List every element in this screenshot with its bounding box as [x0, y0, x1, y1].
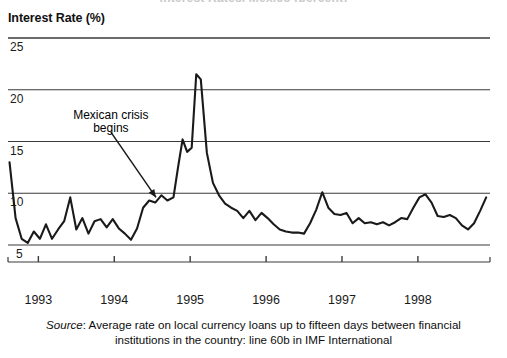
- y-tick-label: 25: [10, 41, 23, 53]
- crisis-annotation-line2: begins: [93, 121, 128, 135]
- annotation-arrow-head: [149, 189, 156, 198]
- x-tick-label: 1994: [84, 294, 144, 307]
- x-tick-label: 1997: [312, 294, 372, 307]
- crisis-annotation: Mexican crisis begins: [51, 109, 171, 135]
- y-tick-label: 20: [10, 93, 23, 105]
- y-tick-label: 10: [10, 196, 23, 208]
- y-tick-label: 5: [16, 248, 23, 260]
- source-body: : Average rate on local currency loans u…: [83, 318, 461, 346]
- x-tick-label: 1996: [236, 294, 296, 307]
- x-tick-label: 1995: [160, 294, 220, 307]
- x-tick-label: 1998: [388, 294, 448, 307]
- crisis-annotation-line1: Mexican crisis: [73, 108, 148, 122]
- data-line-group: [10, 74, 487, 243]
- chart-figure: Interest Rates, Mexico (percent) Interes…: [0, 0, 507, 358]
- gridlines: [8, 38, 490, 245]
- x-axis: [8, 256, 490, 262]
- source-label: Source: [46, 318, 83, 331]
- chart-svg: [0, 30, 507, 285]
- plot-area: [0, 30, 507, 285]
- y-axis-title: Interest Rate (%): [8, 11, 105, 25]
- y-tick-label: 15: [10, 145, 23, 157]
- x-tick-label: 1993: [8, 294, 68, 307]
- source-caption: Source: Average rate on local currency l…: [0, 317, 507, 347]
- data-line: [10, 74, 487, 243]
- clipped-chart-title: Interest Rates, Mexico (percent): [0, 0, 507, 2]
